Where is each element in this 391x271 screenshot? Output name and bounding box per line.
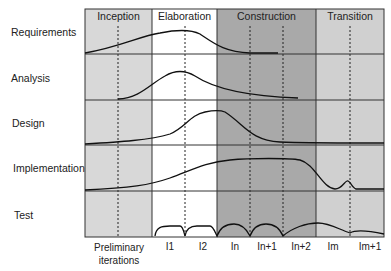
iteration-i2: I2 (188, 241, 218, 252)
phase-label-elaboration: Elaboration (152, 10, 217, 22)
discipline-requirements: Requirements (11, 26, 76, 38)
iteration-in: In (220, 241, 250, 252)
iteration-im-plus-1: Im+1 (352, 241, 388, 252)
phase-construction-bg (217, 9, 316, 237)
iteration-preliminary-line1: Preliminary (86, 241, 152, 254)
discipline-implementation: Implementation (13, 162, 85, 174)
iteration-i1: I1 (155, 241, 185, 252)
iteration-preliminary-line2: iterations (86, 254, 152, 267)
iteration-im: Im (318, 241, 348, 252)
phase-label-inception: Inception (85, 10, 152, 22)
iteration-in-plus-2: In+2 (284, 241, 318, 252)
iteration-in-plus-1: In+1 (250, 241, 284, 252)
iteration-preliminary: Preliminary iterations (86, 241, 152, 267)
rup-diagram (0, 0, 391, 271)
discipline-design: Design (12, 117, 45, 129)
phase-label-construction: Construction (217, 10, 316, 22)
phase-label-transition: Transition (316, 10, 384, 22)
discipline-test: Test (14, 209, 33, 221)
discipline-analysis: Analysis (11, 72, 50, 84)
